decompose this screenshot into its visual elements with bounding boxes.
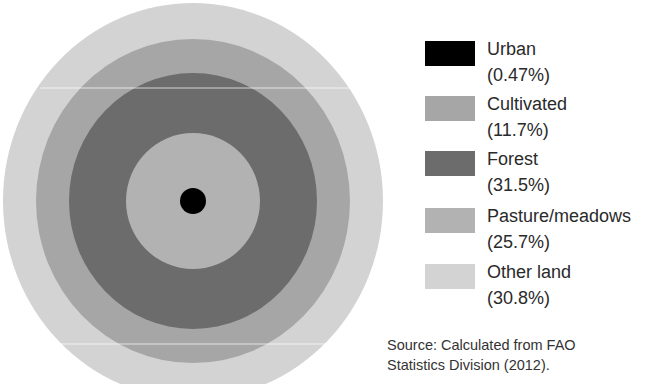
legend-label: Cultivated [487, 91, 567, 117]
legend-item-forest: Forest (31.5%) [425, 151, 662, 207]
legend-swatch-urban [425, 41, 475, 66]
legend-value: (31.5%) [487, 172, 550, 198]
source-note: Source: Calculated from FAO Statistics D… [387, 335, 576, 375]
legend-value: (11.7%) [487, 117, 549, 143]
legend-swatch-forest [425, 151, 475, 176]
legend-label: Pasture/meadows [487, 203, 631, 229]
legend-value: (0.47%) [487, 62, 550, 88]
legend-item-other-land: Other land (30.8%) [425, 264, 662, 320]
legend-label: Other land [487, 259, 571, 285]
concentric-circles-chart [0, 0, 400, 384]
source-line-1: Source: Calculated from FAO [387, 335, 576, 355]
legend-swatch-pasture [425, 208, 475, 233]
source-line-2: Statistics Division (2012). [387, 355, 576, 375]
legend-item-urban: Urban (0.47%) [425, 41, 662, 97]
legend-label: Forest [487, 146, 538, 172]
legend-value: (30.8%) [487, 285, 550, 311]
legend-swatch-other-land [425, 264, 475, 289]
legend-value: (25.7%) [487, 229, 550, 255]
legend-label: Urban [487, 36, 536, 62]
legend-item-pasture: Pasture/meadows (25.7%) [425, 208, 662, 264]
core-urban [180, 188, 206, 214]
legend-swatch-cultivated [425, 96, 475, 121]
legend-item-cultivated: Cultivated (11.7%) [425, 96, 662, 152]
